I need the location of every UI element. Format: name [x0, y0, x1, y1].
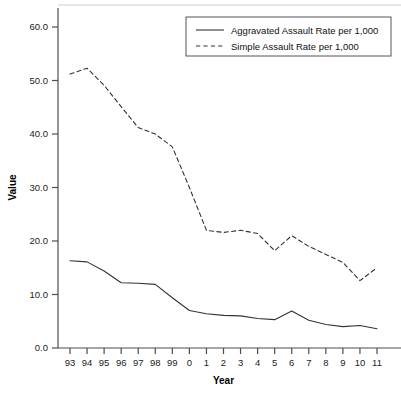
x-tick-label-99: 99 — [167, 357, 178, 368]
y-tick-label-50.0: 50.0 — [30, 75, 49, 86]
x-tick-label-93: 93 — [65, 357, 76, 368]
y-tick-label-60.0: 60.0 — [30, 21, 49, 32]
x-tick-label-7: 7 — [306, 357, 311, 368]
x-tick-label-3: 3 — [238, 357, 243, 368]
x-tick-label-1: 1 — [204, 357, 209, 368]
series-line-1 — [70, 68, 377, 280]
line-chart-plot: 0.010.020.030.040.050.060.09394959697989… — [0, 0, 401, 402]
y-tick-label-40.0: 40.0 — [30, 128, 49, 139]
x-tick-label-0: 0 — [187, 357, 192, 368]
x-tick-label-97: 97 — [133, 357, 144, 368]
y-tick-label-0.0: 0.0 — [35, 342, 48, 353]
series-line-0 — [70, 261, 377, 329]
x-tick-label-5: 5 — [272, 357, 277, 368]
x-tick-label-11: 11 — [372, 357, 382, 368]
x-tick-label-9: 9 — [340, 357, 345, 368]
chart-series — [70, 68, 377, 329]
x-tick-label-98: 98 — [150, 357, 161, 368]
x-axis-title: Year — [213, 375, 234, 386]
x-tick-label-6: 6 — [289, 357, 294, 368]
y-axis-title: Value — [7, 174, 18, 201]
legend-label-0: Aggravated Assault Rate per 1,000 — [231, 25, 378, 36]
y-tick-label-30.0: 30.0 — [30, 182, 49, 193]
chart-container: 0.010.020.030.040.050.060.09394959697989… — [0, 0, 401, 402]
x-tick-label-2: 2 — [221, 357, 226, 368]
x-tick-label-10: 10 — [355, 357, 366, 368]
chart-axes: 0.010.020.030.040.050.060.09394959697989… — [30, 5, 401, 368]
x-tick-label-8: 8 — [323, 357, 328, 368]
x-tick-label-4: 4 — [255, 357, 260, 368]
y-tick-label-10.0: 10.0 — [30, 289, 49, 300]
chart-axis-titles: YearValue — [7, 174, 234, 386]
x-tick-label-94: 94 — [82, 357, 93, 368]
x-tick-label-95: 95 — [99, 357, 110, 368]
y-tick-label-20.0: 20.0 — [30, 235, 49, 246]
legend-label-1: Simple Assault Rate per 1,000 — [231, 41, 359, 52]
x-tick-label-96: 96 — [116, 357, 127, 368]
chart-legend: Aggravated Assault Rate per 1,000Simple … — [186, 17, 391, 56]
